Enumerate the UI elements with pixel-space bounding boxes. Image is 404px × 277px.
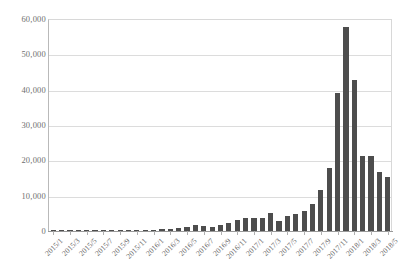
bar-series [49, 19, 392, 231]
x-axis-tick-label: 2017/7 [295, 237, 316, 258]
bar [335, 93, 340, 231]
bar [235, 220, 240, 231]
x-axis-tick-label: 2015/3 [61, 237, 82, 258]
x-axis-tick-label: 2016/1 [144, 237, 165, 258]
y-axis-tick-label: 40,000 [2, 85, 46, 94]
y-axis-tick-label: 50,000 [2, 50, 46, 59]
bar [226, 223, 231, 231]
bar [343, 27, 348, 231]
bar [385, 177, 390, 231]
bar [276, 221, 281, 231]
y-axis-tick-label: 20,000 [2, 156, 46, 165]
y-axis-tick-label: 10,000 [2, 191, 46, 200]
bar-chart: 010,00020,00030,00040,00050,00060,000 20… [0, 0, 404, 277]
bar [293, 214, 298, 231]
x-axis-tick-label: 2016/7 [194, 237, 215, 258]
x-axis-tick-label: 2015/1 [44, 237, 65, 258]
y-axis-tick-label: 60,000 [2, 15, 46, 24]
x-axis-tick-label: 2018/5 [378, 237, 399, 258]
bar [352, 80, 357, 231]
bar [360, 156, 365, 231]
bar [327, 168, 332, 231]
x-axis-labels: 2015/12015/32015/52015/72015/92015/11201… [0, 231, 404, 277]
bar [318, 190, 323, 231]
bar [268, 213, 273, 231]
x-axis-tick-label: 2018/1 [345, 237, 366, 258]
bar [243, 218, 248, 231]
bar [377, 172, 382, 231]
bar [302, 211, 307, 231]
x-axis-tick-label: 2016/5 [178, 237, 199, 258]
x-axis-tick-label: 2017/1 [245, 237, 266, 258]
bar [310, 204, 315, 231]
bar [260, 218, 265, 231]
x-axis-tick-label: 2018/3 [362, 237, 383, 258]
y-axis-tick-label: 30,000 [2, 121, 46, 130]
bar [251, 218, 256, 231]
bar [368, 156, 373, 231]
bar [285, 216, 290, 231]
